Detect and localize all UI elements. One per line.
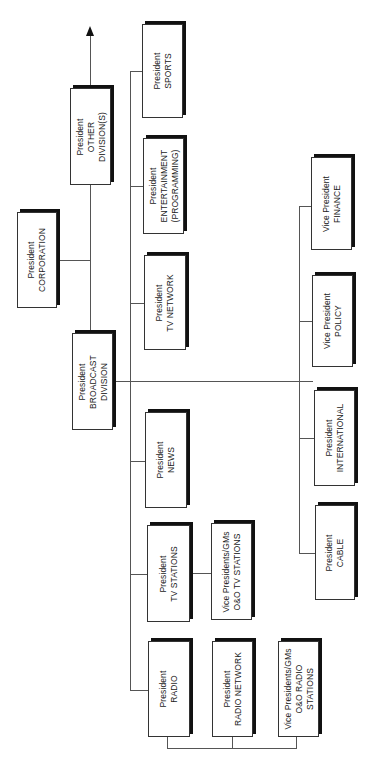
- node-unit: O&O TV STATIONS: [232, 531, 243, 612]
- node-unit-line2: DIVISION(S): [96, 112, 107, 162]
- node-unit-line2: DIVISION: [98, 355, 109, 409]
- node-unit: OTHER: [85, 112, 96, 162]
- node-international: PresidentINTERNATIONAL: [314, 390, 355, 486]
- tv-stations-to-oo-connector: [190, 573, 211, 574]
- node-title: President: [158, 546, 169, 602]
- arrow-up-icon: [86, 26, 94, 36]
- node-title: President: [26, 228, 37, 292]
- node-unit: POLICY: [333, 293, 344, 349]
- node-oo-tv-stations: Vice Presidents/GMsO&O TV STATIONS: [211, 523, 252, 620]
- broadcast-to-right-connector: [113, 381, 313, 382]
- node-title: President: [154, 274, 165, 332]
- node-title: President: [74, 112, 85, 162]
- radio-connector: [130, 690, 148, 691]
- node-corporation: PresidentCORPORATION: [17, 212, 57, 308]
- node-entertainment: PresidentENTERTAINMENT(PROGRAMMING): [143, 138, 184, 234]
- node-tv-network: PresidentTV NETWORK: [144, 255, 186, 350]
- node-unit: RADIO NETWORK: [233, 652, 244, 726]
- node-title: Vice President: [322, 293, 333, 349]
- node-other-divisions: PresidentOTHERDIVISION(S): [70, 88, 111, 185]
- node-policy: Vice PresidentPOLICY: [312, 275, 353, 367]
- node-title: President: [324, 534, 335, 571]
- node-news: PresidentNEWS: [145, 412, 187, 508]
- entertainment-connector: [130, 186, 143, 187]
- corporation-connector: [57, 260, 91, 261]
- node-unit: CORPORATION: [37, 228, 48, 292]
- node-oo-radio-stations: Vice Presidents/GMsO&O RADIOSTATIONS: [278, 641, 319, 737]
- node-title: President: [324, 404, 335, 473]
- node-cable: PresidentCABLE: [315, 505, 355, 600]
- node-unit: CABLE: [335, 534, 346, 571]
- node-title: President: [158, 671, 169, 708]
- node-title: Vice Presidents/GMs: [282, 648, 293, 729]
- node-title: Vice Presidents/GMs: [221, 531, 232, 612]
- node-finance: Vice PresidentFINANCE: [311, 157, 352, 250]
- node-unit-line2: STATIONS: [304, 648, 315, 729]
- left-branch-spine: [130, 71, 131, 691]
- node-title: President: [155, 442, 166, 479]
- node-unit: INTERNATIONAL: [335, 404, 346, 473]
- node-title: President: [147, 149, 158, 222]
- oo-radio-drop: [296, 737, 297, 748]
- node-tv-stations: PresidentTV STATIONS: [147, 525, 190, 622]
- node-unit: SPORTS: [163, 53, 174, 90]
- radio-bottom-bar: [167, 748, 297, 749]
- node-unit: RADIO: [169, 671, 180, 708]
- node-unit: O&O RADIO: [293, 648, 304, 729]
- node-unit: TV STATIONS: [169, 546, 180, 602]
- node-unit: TV NETWORK: [165, 274, 176, 332]
- node-unit: NEWS: [166, 442, 177, 479]
- node-unit-line2: (PROGRAMMING): [169, 149, 180, 222]
- node-broadcast-division: PresidentBROADCASTDIVISION: [72, 333, 113, 430]
- tv-network-connector: [130, 303, 144, 304]
- international-connector: [299, 438, 314, 439]
- node-unit: BROADCAST: [87, 355, 98, 409]
- radio-drop: [167, 737, 168, 748]
- news-connector: [130, 461, 145, 462]
- node-radio: PresidentRADIO: [148, 641, 190, 737]
- right-branch-spine: [299, 206, 300, 554]
- node-sports: PresidentSPORTS: [142, 24, 183, 118]
- node-title: President: [152, 53, 163, 90]
- policy-connector: [299, 321, 312, 322]
- radio-network-drop: [232, 737, 233, 748]
- tv-stations-connector: [130, 574, 147, 575]
- node-unit: ENTERTAINMENT: [158, 149, 169, 222]
- node-unit: FINANCE: [332, 175, 343, 231]
- sports-connector: [130, 71, 142, 72]
- finance-connector: [299, 206, 311, 207]
- node-title: President: [222, 652, 233, 726]
- node-title: Vice President: [321, 175, 332, 231]
- node-title: President: [76, 355, 87, 409]
- cable-connector: [299, 553, 315, 554]
- node-radio-network: PresidentRADIO NETWORK: [212, 641, 253, 737]
